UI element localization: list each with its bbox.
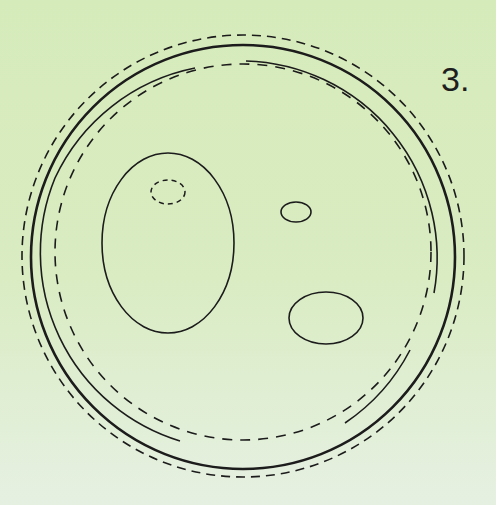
inner-solid-arc-right (246, 61, 437, 293)
figure-label: 3. (441, 62, 469, 96)
small-oval-organelle (281, 202, 311, 222)
dashed-small-oval (151, 180, 185, 204)
inner-dashed-membrane (55, 64, 431, 440)
outer-dashed-membrane (22, 35, 464, 477)
large-oval-organelle (102, 153, 234, 333)
medium-oval-organelle (289, 292, 363, 344)
thick-solid-membrane (31, 45, 455, 469)
cell-diagram (0, 0, 496, 505)
